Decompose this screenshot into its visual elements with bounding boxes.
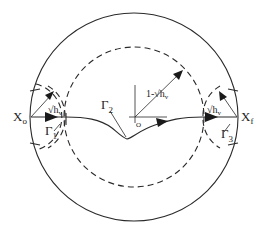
contour-diagram: Xo Xf Γ1 Γ2 Γ3 √hv √hv 1-√hv O <box>0 0 267 231</box>
path-arrow-middle <box>156 118 168 127</box>
tick-left-bottom <box>30 143 40 145</box>
label-gamma2: Γ2 <box>101 97 113 115</box>
label-x0: Xo <box>13 109 27 126</box>
label-gamma3: Γ3 <box>221 126 234 144</box>
label-inner-radius: 1-√hv <box>146 88 169 101</box>
label-gamma1: Γ1 <box>45 123 57 141</box>
label-origin: O <box>136 121 141 129</box>
label-xf: Xf <box>241 109 253 126</box>
right-radius-arrowhead <box>219 91 227 101</box>
left-radius-arrowhead <box>45 91 54 100</box>
gamma1-pointer <box>54 124 60 131</box>
tick-right-top <box>228 89 238 91</box>
tick-left-top <box>30 89 40 91</box>
